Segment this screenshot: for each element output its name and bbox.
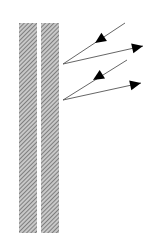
reflected-2-line [63, 83, 141, 100]
incident-2-line [63, 60, 127, 100]
slab-left [19, 23, 37, 233]
reflected-1-line [63, 46, 143, 64]
arrowhead-icon [95, 33, 107, 43]
incident-1-line [63, 23, 125, 64]
arrowhead-icon [129, 80, 141, 90]
reflection-diagram [0, 0, 155, 243]
arrowhead-icon [131, 44, 143, 54]
slab-right [41, 23, 59, 233]
slabs-group [19, 23, 59, 233]
rays-group [63, 23, 143, 100]
